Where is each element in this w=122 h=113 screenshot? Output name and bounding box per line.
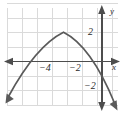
x-axis-arrow-left	[4, 58, 13, 65]
x-axis-name-label: x	[112, 63, 116, 72]
x-tick-label-neg4: −4	[39, 63, 51, 73]
y-axis-arrow-up	[98, 5, 105, 14]
x-tick-label-neg2: −2	[69, 63, 81, 73]
y-tick-label-neg2: −2	[84, 81, 96, 91]
y-axis-arrow-down	[98, 102, 105, 111]
y-axis-name-label: y	[110, 7, 114, 16]
coordinate-plane	[0, 0, 122, 113]
y-axis	[98, 5, 105, 111]
y-tick-label-pos2: 2	[88, 27, 93, 37]
graph-figure: −4 −2 2 −2 x y	[0, 0, 122, 113]
